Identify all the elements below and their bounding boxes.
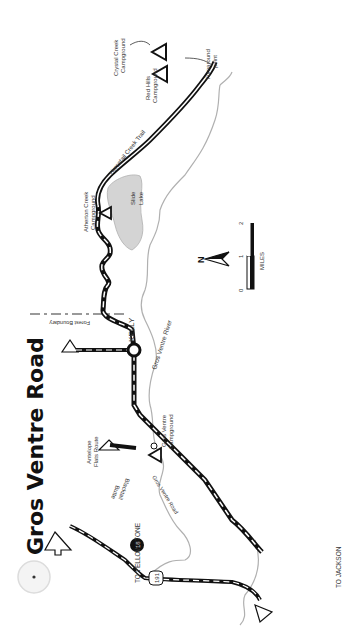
turnaround-label-2: point [212, 55, 218, 68]
atherton-creek-campground-icon [100, 207, 111, 219]
kelly-north-arrow-icon [62, 340, 78, 352]
crystal-creek-label-2: Campground [120, 38, 126, 73]
gros-ventre-river-label: Gros Ventre River [150, 318, 173, 370]
scale-tick-0: 0 [238, 288, 244, 292]
gros-ventre-campground-icon [149, 443, 161, 462]
highway-191 [70, 526, 260, 600]
atherton-creek-label-1: Atherton Creek [83, 191, 89, 232]
scale-miles-label: MILES [259, 252, 265, 270]
kelly-label: KELLY [127, 317, 136, 342]
red-hills-label-2: Campground [152, 68, 158, 103]
turnaround-label-1: Turnaround [205, 49, 211, 80]
crystal-creek-label-1: Crystal Creek [113, 39, 119, 76]
to-yellowstone-label: TO YELLOWSTONE [134, 522, 141, 583]
antelope-flats-label-2: Flats Route [93, 436, 99, 467]
scale-tick-1: 1 [238, 254, 244, 258]
gros-ventre-road-label: Gros Ventre Road [151, 474, 179, 515]
scale-bar: 0 1 2 MILES [238, 221, 265, 292]
slide-lake-label-2: Lake [138, 191, 144, 205]
atherton-creek-label-2: Campground [90, 195, 96, 230]
slide-lake [107, 175, 143, 250]
forest-boundary-label: Forest Boundary [49, 320, 90, 326]
compass-north-label: N [196, 257, 206, 264]
page-title: Gros Ventre Road [23, 337, 48, 555]
to-jackson-label: TO JACKSON [335, 546, 342, 588]
crystal-creek-campground-icon [152, 44, 166, 60]
gros-ventre-campground-label-1: Gros Ventre [161, 414, 167, 447]
kelly-junction-marker [128, 344, 140, 356]
scale-tick-2: 2 [238, 221, 244, 225]
to-jackson-arrow-icon [255, 605, 272, 622]
to-yellowstone-arrow-icon [45, 532, 71, 555]
gros-ventre-campground-label-2: Campground [168, 414, 174, 449]
main-road [97, 62, 262, 552]
antelope-flats-label-1: Antelope [86, 440, 92, 464]
title-block: Gros Ventre Road [18, 337, 50, 593]
svg-text:191: 191 [154, 572, 160, 583]
gros-ventre-road-map: Gros Ventre Road 18 191 [0, 0, 361, 634]
horsetail-trail-label: Horsetail Creek Trail [108, 129, 146, 176]
red-hills-label-1: Red Hills [145, 76, 151, 100]
north-arrow: N [196, 252, 229, 266]
route-191-shield: 191 [149, 571, 163, 585]
slide-lake-label-1: Slide [130, 191, 136, 205]
gros-ventre-river [141, 85, 220, 575]
